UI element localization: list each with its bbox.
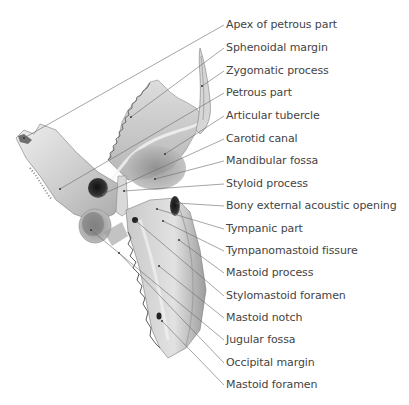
leader-dot [130,116,132,118]
leader-dot [201,85,203,87]
zygomatic-process [196,48,211,134]
petrous-part [16,124,122,222]
leader-dot [123,190,125,192]
leader-dot [90,229,92,231]
leader-dot [162,220,164,222]
leader-dot [175,202,177,204]
temporal-bone-illustration [0,0,409,405]
leader-dot [161,320,163,322]
leader-dot [178,239,180,241]
external-acoustic-opening [170,196,180,216]
leader-dot [164,153,166,155]
carotid-canal [88,178,108,198]
mastoid-region [126,198,206,358]
leader-dot [158,265,160,267]
leader-dot [118,252,120,254]
leader-dot [59,188,61,190]
leader-dot [135,220,137,222]
mastoid-foramen [157,313,162,320]
leader-dot [156,208,158,210]
mandibular-fossa [126,146,186,190]
leader-dot [154,178,156,180]
leader-dot [23,137,25,139]
leader-dot [100,194,102,196]
